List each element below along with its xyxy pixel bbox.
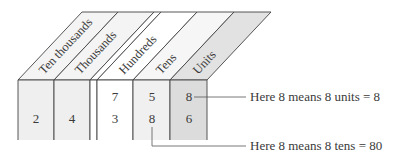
digit-ten-thousands-r2: 2: [33, 111, 40, 126]
front-thousands: [54, 80, 90, 140]
digit-tens-r1: 5: [149, 89, 156, 104]
place-value-diagram: Ten thousands Thousands Hundreds Tens Un…: [0, 0, 403, 155]
digit-units-r1: 8: [186, 89, 193, 104]
front-gap: [90, 80, 97, 140]
digit-hundreds-r1: 7: [112, 89, 119, 104]
front-ten-thousands: [18, 80, 54, 140]
digit-hundreds-r2: 3: [112, 111, 119, 126]
digit-thousands-r2: 4: [69, 111, 76, 126]
annotation-units: Here 8 means 8 units = 8: [250, 89, 380, 104]
annotation-tens: Here 8 means 8 tens = 80: [250, 138, 382, 153]
digit-units-r2: 6: [186, 111, 193, 126]
digit-tens-r2: 8: [149, 111, 156, 126]
